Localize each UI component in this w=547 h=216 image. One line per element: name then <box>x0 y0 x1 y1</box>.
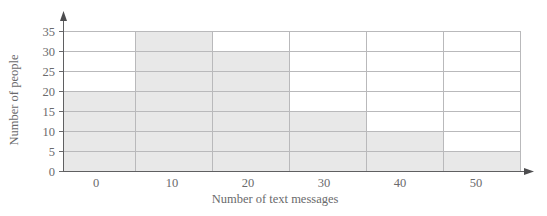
y-tick-label-15: 15 <box>43 105 56 119</box>
x-tick-label-40: 40 <box>394 176 407 190</box>
histogram-chart: 0 5 10 15 20 25 30 35 0 10 20 30 40 50 N… <box>0 0 547 216</box>
x-tick-label-10: 10 <box>166 176 179 190</box>
y-tick-label-25: 25 <box>43 65 56 79</box>
y-tick-label-30: 30 <box>43 45 56 59</box>
bar-25-35 <box>289 111 366 171</box>
x-tick-label-30: 30 <box>318 176 331 190</box>
x-axis-title: Number of text messages <box>212 192 339 206</box>
y-tick-label-20: 20 <box>43 85 56 99</box>
histogram-figure: 0 5 10 15 20 25 30 35 0 10 20 30 40 50 N… <box>0 0 547 216</box>
y-tick-label-10: 10 <box>43 125 56 139</box>
y-tick-label-5: 5 <box>49 145 55 159</box>
x-tick-label-50: 50 <box>470 176 483 190</box>
bar-45-55 <box>443 151 521 171</box>
y-tick-label-0: 0 <box>49 165 55 179</box>
x-tick-label-0: 0 <box>93 176 99 190</box>
x-tick-label-20: 20 <box>242 176 255 190</box>
y-tick-label-35: 35 <box>43 25 56 39</box>
y-axis-title: Number of people <box>7 54 21 145</box>
